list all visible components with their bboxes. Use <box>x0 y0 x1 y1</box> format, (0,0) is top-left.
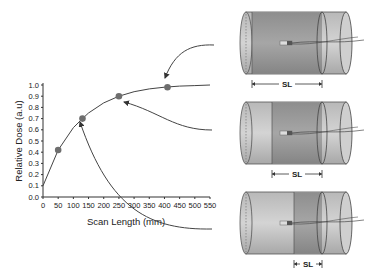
y-ticks: 0.00.10.20.30.40.50.60.70.80.91.0 <box>29 81 43 202</box>
x-tick-label: 100 <box>67 201 80 210</box>
data-point <box>164 84 171 91</box>
y-tick-label: 0.8 <box>29 103 39 112</box>
x-axis-label: Scan Length (mm) <box>87 216 165 227</box>
dose-curve <box>43 85 210 186</box>
data-point <box>55 147 62 154</box>
y-axis-label: Relative Dose (a.u) <box>13 100 24 181</box>
y-tick-label: 0.7 <box>29 114 39 123</box>
phantom-diagram-medium: SL <box>240 102 364 179</box>
x-tick-label: 450 <box>173 201 186 210</box>
x-tick-label: 350 <box>143 201 156 210</box>
scan-length-label: SL <box>292 170 302 179</box>
x-tick-label: 250 <box>113 201 126 210</box>
y-tick-label: 0.9 <box>29 92 39 101</box>
y-tick-label: 0.4 <box>29 148 39 157</box>
y-tick-label: 1.0 <box>29 81 39 90</box>
data-points <box>55 84 171 153</box>
data-point <box>79 115 86 122</box>
x-tick-label: 150 <box>82 201 95 210</box>
x-ticks: 050100150200250300350400450500550 <box>41 197 216 210</box>
y-tick-label: 0.3 <box>29 159 39 168</box>
figure: 0.00.10.20.30.40.50.60.70.80.91.0 050100… <box>0 0 370 275</box>
x-tick-label: 50 <box>54 201 62 210</box>
phantom-diagram-short: SL <box>240 192 364 269</box>
y-tick-label: 0.6 <box>29 125 39 134</box>
phantom-diagram-long: SL <box>240 12 364 89</box>
x-tick-label: 400 <box>158 201 171 210</box>
chart: 0.00.10.20.30.40.50.60.70.80.91.0 050100… <box>13 81 216 228</box>
x-tick-label: 550 <box>204 201 217 210</box>
data-point <box>116 93 123 100</box>
scan-length-label: SL <box>303 260 313 269</box>
y-tick-label: 0.2 <box>29 170 39 179</box>
y-tick-label: 0.0 <box>29 193 39 202</box>
y-tick-label: 0.1 <box>29 181 39 190</box>
x-tick-label: 0 <box>41 201 45 210</box>
scan-length-label: SL <box>282 80 292 89</box>
y-tick-label: 0.5 <box>29 137 39 146</box>
x-tick-label: 500 <box>189 201 202 210</box>
x-tick-label: 200 <box>97 201 110 210</box>
